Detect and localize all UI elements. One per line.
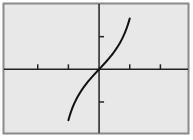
graph-plot [0,0,193,140]
